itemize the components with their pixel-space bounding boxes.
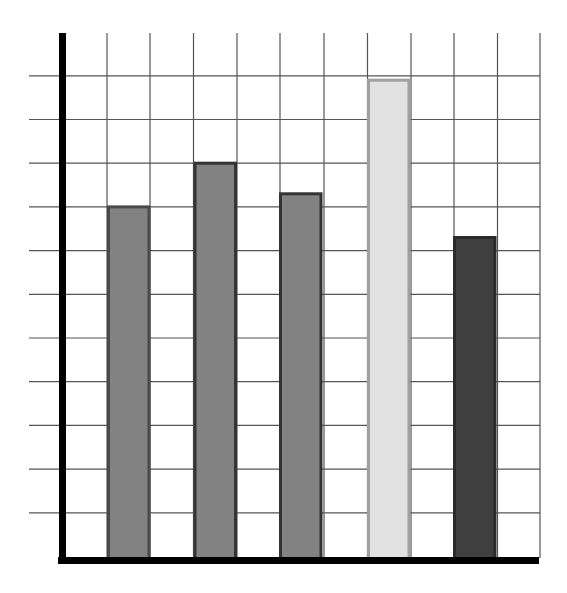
bar-5	[455, 237, 496, 559]
y-axis	[59, 33, 66, 564]
bar-4	[369, 80, 410, 559]
bars	[109, 80, 496, 559]
x-axis	[58, 557, 539, 564]
bar-3	[281, 194, 322, 560]
bar-1	[109, 207, 150, 560]
bar-chart	[0, 0, 567, 593]
bar-2	[195, 163, 236, 559]
